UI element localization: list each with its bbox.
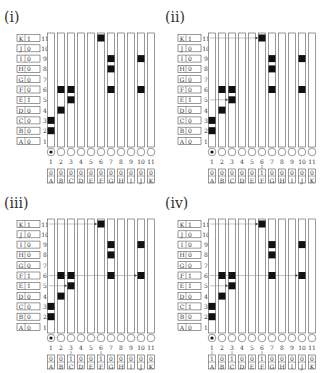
column-tube — [259, 219, 266, 333]
marker-square — [269, 251, 276, 258]
column-base-circle — [258, 148, 266, 156]
column-letter: F — [260, 177, 264, 184]
column-value: 0 — [220, 355, 224, 362]
marker-square — [269, 241, 276, 248]
column-value: 0 — [79, 169, 83, 176]
column-tube — [239, 219, 246, 333]
row-number: 3 — [43, 117, 47, 124]
column-number: 2 — [59, 344, 63, 351]
row-value: 0 — [27, 76, 31, 83]
row-value: 1 — [27, 282, 31, 289]
column-number: 4 — [79, 158, 83, 165]
marker-square — [108, 86, 115, 93]
column-value: 1 — [69, 355, 73, 362]
column-base-circle — [268, 334, 276, 342]
row-value: 1 — [188, 35, 192, 42]
column-letter: D — [79, 177, 84, 184]
row-letter: B — [19, 127, 24, 134]
column-number: 6 — [260, 158, 264, 165]
column-number: 3 — [230, 158, 234, 165]
column-letter: J — [139, 363, 143, 371]
column-tube — [88, 219, 95, 333]
row-value: 0 — [27, 127, 31, 134]
marker-square — [299, 241, 306, 248]
column-value: 0 — [310, 169, 314, 176]
row-number: 2 — [204, 313, 208, 320]
column-number: 8 — [280, 344, 284, 351]
column-value: 0 — [89, 355, 93, 362]
column-base-circle — [57, 148, 65, 156]
column-base-circle — [288, 148, 296, 156]
column-value: 1 — [260, 169, 264, 176]
column-value: 1 — [210, 355, 214, 362]
marker-square — [108, 272, 115, 279]
row-number: 9 — [204, 241, 208, 248]
row-value: 0 — [188, 262, 192, 269]
row-number: 4 — [204, 107, 208, 114]
column-value: 0 — [139, 169, 143, 176]
column-number: 1 — [210, 344, 214, 351]
column-base-circle — [117, 148, 125, 156]
row-number: 1 — [43, 138, 47, 145]
row-value: 0 — [27, 107, 31, 114]
column-value: 0 — [270, 355, 274, 362]
column-value: 0 — [290, 169, 294, 176]
column-tube — [309, 33, 316, 147]
column-letter: C — [69, 363, 74, 370]
row-number: 3 — [43, 303, 47, 310]
row-value: 0 — [27, 86, 31, 93]
column-letter: D — [240, 177, 245, 184]
column-letter: A — [209, 177, 215, 184]
column-number: 7 — [270, 344, 274, 351]
row-letter: G — [19, 76, 24, 83]
row-number: 1 — [204, 138, 208, 145]
column-base-circle — [117, 334, 125, 342]
row-value: 1 — [27, 221, 31, 228]
row-letter: C — [19, 117, 24, 124]
column-tube — [309, 219, 316, 333]
row-letter: F — [180, 272, 184, 279]
column-number: 5 — [89, 158, 93, 165]
marker-square — [98, 221, 105, 228]
column-letter: E — [89, 177, 93, 184]
row-number: 8 — [43, 251, 47, 258]
marker-square — [209, 127, 216, 134]
column-tube — [279, 33, 286, 147]
column-value: 0 — [139, 355, 143, 362]
row-value: 0 — [27, 313, 31, 320]
marker-square — [138, 55, 145, 62]
marker-square — [269, 55, 276, 62]
column-number: 8 — [119, 344, 123, 351]
column-value: 1 — [230, 355, 234, 362]
row-letter: E — [19, 96, 23, 103]
row-number: 7 — [204, 76, 208, 83]
row-value: 0 — [27, 45, 31, 52]
marker-square — [259, 221, 266, 228]
row-letter: H — [179, 251, 184, 258]
column-letter: C — [69, 177, 74, 184]
column-number: 10 — [298, 344, 306, 351]
column-letter: K — [310, 177, 315, 184]
marker-square — [229, 96, 236, 103]
row-value: 0 — [188, 138, 192, 145]
row-letter: C — [180, 303, 185, 310]
column-value: 0 — [270, 169, 274, 176]
row-value: 0 — [188, 241, 192, 248]
column-value: 0 — [89, 169, 93, 176]
column-value: 0 — [240, 169, 244, 176]
marker-square — [58, 107, 65, 114]
marker-square — [108, 251, 115, 258]
column-number: 10 — [298, 158, 306, 165]
column-value: 1 — [99, 355, 103, 362]
row-value: 0 — [188, 293, 192, 300]
column-letter: A — [209, 363, 215, 370]
row-letter: H — [18, 251, 23, 258]
row-number: 9 — [43, 241, 47, 248]
column-value: 0 — [280, 169, 284, 176]
start-dot — [210, 150, 213, 153]
column-number: 5 — [89, 344, 93, 351]
column-number: 8 — [119, 158, 123, 165]
column-value: 0 — [290, 355, 294, 362]
column-tube — [259, 33, 266, 147]
start-dot — [49, 336, 52, 339]
